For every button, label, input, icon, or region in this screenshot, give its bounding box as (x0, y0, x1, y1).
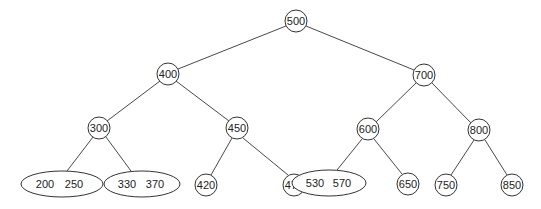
tree-node-420: 420 (195, 174, 217, 196)
node-key-2: 370 (146, 178, 164, 190)
tree-node-400: 400 (157, 63, 179, 85)
tree-node-650: 650 (397, 173, 419, 195)
node-label: 420 (197, 179, 215, 191)
node-label: 500 (287, 15, 305, 27)
edge-700-600 (376, 83, 416, 122)
tree-node-500: 500 (285, 10, 307, 32)
edge-450-470 (243, 138, 288, 175)
node-key-1: 330 (118, 178, 136, 190)
node-label: 400 (159, 68, 177, 80)
node-label: 600 (359, 123, 377, 135)
node-label: 300 (90, 122, 108, 134)
node-key-1: 530 (306, 177, 324, 189)
edge-400-450 (176, 81, 229, 121)
tree-node-200-250: 200 250 (21, 171, 103, 197)
node-key-1: 200 (36, 178, 54, 190)
edge-500-400 (178, 26, 286, 69)
edge-500-700 (306, 26, 414, 70)
node-label: 800 (470, 124, 488, 136)
tree-node-800: 800 (468, 119, 490, 141)
edge-700-800 (432, 83, 471, 123)
node-key-2: 570 (333, 177, 351, 189)
tree-node-530-570: 530 570 (292, 170, 366, 196)
tree-node-450: 450 (226, 117, 248, 139)
edge-400-300 (107, 81, 160, 121)
tree-node-330-370: 330 370 (104, 171, 180, 197)
edge-300-200-250 (67, 137, 93, 171)
node-label: 850 (503, 179, 521, 191)
edge-300-330-370 (106, 137, 131, 171)
tree-node-300: 300 (88, 117, 110, 139)
edge-600-530-570 (337, 139, 362, 170)
node-label: 450 (228, 122, 246, 134)
edges (67, 26, 507, 175)
edge-600-650 (374, 139, 402, 174)
edge-800-850 (485, 140, 507, 175)
tree-diagram: 500 400 700 300 450 600 800 200 250 330 … (0, 0, 541, 209)
edge-450-420 (211, 138, 232, 175)
tree-node-750: 750 (435, 174, 457, 196)
tree-node-600: 600 (357, 118, 379, 140)
tree-node-850: 850 (501, 174, 523, 196)
edge-800-750 (451, 140, 474, 175)
node-label: 650 (399, 178, 417, 190)
node-key-2: 250 (65, 178, 83, 190)
tree-node-700: 700 (413, 64, 435, 86)
node-label: 750 (437, 179, 455, 191)
node-label: 700 (415, 69, 433, 81)
